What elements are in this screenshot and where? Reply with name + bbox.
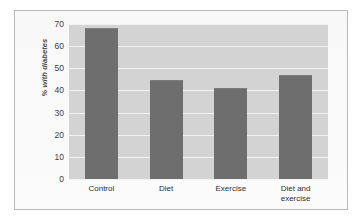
y-axis-tick-label: 20 bbox=[55, 130, 64, 139]
y-axis-tick-label: 0 bbox=[59, 175, 64, 184]
y-axis-tick-label: 40 bbox=[55, 86, 64, 95]
y-axis-tick-label: 50 bbox=[55, 64, 64, 73]
x-axis-category-label: Diet and exercise bbox=[265, 184, 327, 203]
y-axis-tick-label: 60 bbox=[55, 42, 64, 51]
y-axis-tick-label: 70 bbox=[55, 20, 64, 29]
bar: Exercise bbox=[214, 88, 247, 179]
bar: Control bbox=[85, 28, 118, 179]
figure-frame: % with diabetes 010203040506070ControlDi… bbox=[14, 10, 348, 210]
x-axis-category-label: Control bbox=[70, 184, 132, 194]
gridline bbox=[69, 24, 328, 25]
y-axis-title: % with diabetes bbox=[40, 23, 49, 113]
gridline bbox=[69, 179, 328, 180]
plot-area: 010203040506070ControlDietExerciseDiet a… bbox=[69, 24, 328, 179]
bar: Diet and exercise bbox=[279, 75, 312, 179]
x-axis-category-label: Exercise bbox=[200, 184, 262, 194]
x-axis-category-label: Diet bbox=[135, 184, 197, 194]
bar: Diet bbox=[150, 80, 183, 179]
y-axis-tick-label: 10 bbox=[55, 153, 64, 162]
y-axis-tick-label: 30 bbox=[55, 108, 64, 117]
